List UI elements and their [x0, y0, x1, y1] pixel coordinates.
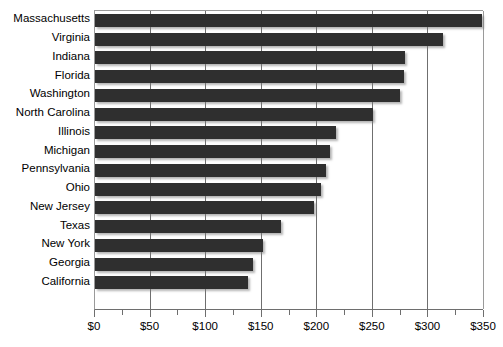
major-tick-50: [150, 310, 151, 317]
value-tick-label: $350: [470, 320, 496, 332]
bar: [95, 33, 443, 46]
major-tick-150: [261, 310, 262, 317]
bar: [95, 258, 253, 271]
major-tick-0: [94, 310, 95, 317]
bar: [95, 14, 482, 27]
bar: [95, 183, 321, 196]
category-label: New York: [0, 238, 90, 250]
category-label: Massachusetts: [0, 13, 90, 25]
category-label: Indiana: [0, 51, 90, 63]
bar: [95, 89, 400, 102]
category-label: Washington: [0, 88, 90, 100]
bar: [95, 164, 326, 177]
bar: [95, 220, 281, 233]
bar: [95, 145, 330, 158]
minor-tick-25: [122, 310, 123, 315]
value-tick-label: $150: [248, 320, 274, 332]
value-tick-label: $300: [415, 320, 441, 332]
category-label: North Carolina: [0, 107, 90, 119]
major-tick-350: [483, 310, 484, 317]
major-tick-200: [316, 310, 317, 317]
value-axis: $0$50$100$150$200$250$300$350: [94, 310, 483, 347]
major-tick-250: [372, 310, 373, 317]
bar: [95, 126, 336, 139]
value-tick-label: $100: [192, 320, 218, 332]
category-label: New Jersey: [0, 201, 90, 213]
minor-tick-225: [344, 310, 345, 315]
minor-tick-75: [177, 310, 178, 315]
bar: [95, 239, 263, 252]
minor-tick-325: [455, 310, 456, 315]
category-label: Pennsylvania: [0, 163, 90, 175]
category-label: Michigan: [0, 145, 90, 157]
value-tick-label: $250: [359, 320, 385, 332]
major-tick-100: [205, 310, 206, 317]
bar: [95, 108, 373, 121]
category-label: Georgia: [0, 257, 90, 269]
category-label: Texas: [0, 220, 90, 232]
category-label: California: [0, 276, 90, 288]
bar-chart: MassachusettsVirginiaIndianaFloridaWashi…: [0, 0, 503, 347]
bar: [95, 201, 314, 214]
category-label: Ohio: [0, 182, 90, 194]
bar: [95, 276, 248, 289]
value-tick-label: $50: [140, 320, 159, 332]
gridline-350: [483, 11, 484, 309]
major-tick-300: [427, 310, 428, 317]
minor-tick-125: [233, 310, 234, 315]
category-label: Illinois: [0, 126, 90, 138]
category-label: Virginia: [0, 32, 90, 44]
minor-tick-275: [400, 310, 401, 315]
value-tick-label: $0: [88, 320, 101, 332]
category-axis-labels: MassachusettsVirginiaIndianaFloridaWashi…: [0, 10, 90, 310]
bar: [95, 51, 405, 64]
plot-area: [94, 10, 483, 310]
value-tick-label: $200: [303, 320, 329, 332]
minor-tick-175: [289, 310, 290, 315]
bar: [95, 70, 404, 83]
category-label: Florida: [0, 70, 90, 82]
gridline-300: [427, 11, 428, 309]
